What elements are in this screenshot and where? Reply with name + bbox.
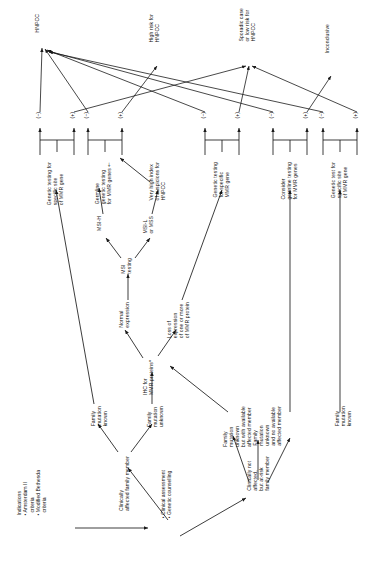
test-node-genetic-testing-specific-site: Genetic testing for specific site of MMR… [46, 162, 64, 205]
family-mutation-known-at-risk: Family mutation known [334, 406, 352, 426]
very-high-index-node: Very high index of suspicions for HNPCC [148, 162, 166, 201]
ihc-mmr-proteins-node: IHC for MMR proteins* [142, 360, 154, 395]
result-sign-9: (−) [319, 112, 324, 118]
normal-expression-node: Normal expression [118, 302, 130, 328]
indications-block: Indications • Amsterdam II criteria • Mo… [16, 470, 47, 515]
outcome-high-risk: High risk for HNPCC [148, 14, 160, 42]
family-mutation-unknown-no-available: Family mutation unknown and no available… [252, 406, 282, 446]
result-sign-10: (+) [353, 112, 358, 118]
flowchart-connectors [0, 0, 378, 564]
test-node-genetic-testing-specific-gene: Genetic testing for specific MMR gene [212, 162, 230, 197]
result-sign-6: (+) [235, 112, 240, 118]
result-sign-4: (+) [118, 112, 123, 118]
clinical-assessment-block: • Clinical assessment • Genetic counsell… [160, 470, 173, 518]
result-sign-8: (+) [303, 112, 308, 118]
loss-of-expression-node: Loss of expression of one or more of MMR… [166, 302, 190, 338]
flowchart-canvas: HNPCC High risk for HNPCC Sporadic case … [0, 0, 378, 564]
family-mutation-unknown-affected: Family mutation unknown [146, 406, 164, 427]
msi-low-mss-node: MSI-L or MSS [142, 216, 154, 234]
msi-testing-node: MSI testing [120, 258, 132, 274]
outcome-inconclusive: Inconclusive [324, 24, 330, 53]
clinically-affected-node: Clinically affected family member [118, 456, 130, 511]
outcome-hnpcc: HNPCC [34, 14, 40, 33]
test-node-germline-genetic-testing: Germline genetic testing for MMR genes† [94, 162, 112, 204]
result-sign-5: (−) [201, 112, 206, 118]
test-node-consider-germline-testing: Consider germline testing for MMR genes [280, 162, 298, 200]
family-mutation-unknown-available: Family mutation unknown but with availab… [222, 406, 252, 447]
outcome-sporadic: Sporadic case or low risk for HNPCC [238, 8, 256, 42]
msi-high-node: MSI-H [96, 216, 102, 231]
clinically-not-affected-node: Clinically not affected, but at-risk fam… [246, 456, 270, 491]
test-node-genetic-test-specific-site: Genetic test for specific site of MMR ge… [330, 162, 348, 198]
result-sign-7: (−) [269, 112, 274, 118]
result-sign-2: (+) [70, 112, 75, 118]
result-sign-1: (−) [36, 112, 41, 118]
result-sign-3: (−) [84, 112, 89, 118]
family-mutation-known-affected: Family mutation known [90, 406, 108, 426]
